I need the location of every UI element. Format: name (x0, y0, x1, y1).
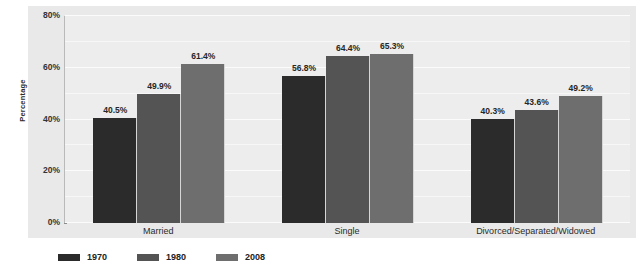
bar-value-label: 43.6% (507, 97, 567, 107)
bar[interactable] (471, 119, 515, 223)
y-axis-tick-label: 0% (18, 217, 60, 227)
bar-value-label: 61.4% (173, 51, 233, 61)
bar-group: 40.5%49.9%61.4% (65, 16, 254, 223)
bar-wrapper: 40.5% (93, 16, 137, 223)
legend-label: 1970 (87, 252, 107, 262)
bar[interactable] (326, 56, 370, 223)
bar-wrapper: 49.2% (559, 16, 603, 223)
bar-value-label: 40.3% (463, 106, 523, 116)
legend-swatch-icon (216, 254, 238, 261)
bar-value-label: 56.8% (274, 63, 334, 73)
legend-swatch-icon (137, 254, 159, 261)
bar[interactable] (93, 118, 137, 223)
legend-swatch-icon (58, 254, 80, 261)
bar[interactable] (370, 54, 414, 223)
bar-value-label: 65.3% (362, 41, 422, 51)
bar-wrapper: 65.3% (370, 16, 414, 223)
bar-wrapper: 49.9% (137, 16, 181, 223)
bar-wrapper: 61.4% (181, 16, 225, 223)
legend-label: 2008 (245, 252, 265, 262)
legend-item[interactable]: 1980 (137, 252, 186, 262)
chart-legend: 197019802008 (28, 246, 636, 268)
bar-group: 56.8%64.4%65.3% (254, 16, 443, 223)
bar-wrapper: 43.6% (515, 16, 559, 223)
bar-group: 40.3%43.6%49.2% (442, 16, 631, 223)
legend-label: 1980 (166, 252, 186, 262)
legend-item[interactable]: 1970 (58, 252, 107, 262)
bar[interactable] (137, 94, 181, 223)
y-axis-tick-label: 60% (18, 62, 60, 72)
bar-value-label: 49.9% (129, 81, 189, 91)
y-axis-tick-mark (64, 223, 67, 224)
x-axis-category-label: Single (253, 226, 442, 236)
y-axis-title: Percentage (18, 61, 27, 141)
bar-wrapper: 40.3% (471, 16, 515, 223)
bar-chart: Percentage 0%20%40%60%80% 40.5%49.9%61.4… (0, 0, 644, 271)
bar[interactable] (181, 64, 225, 223)
bar[interactable] (515, 110, 559, 223)
bar[interactable] (282, 76, 326, 223)
bar[interactable] (559, 96, 603, 223)
y-axis-tick-label: 40% (18, 114, 60, 124)
bar-value-label: 49.2% (551, 83, 611, 93)
x-axis-category-label: Divorced/Separated/Widowed (441, 226, 630, 236)
legend-item[interactable]: 2008 (216, 252, 265, 262)
y-axis-tick-label: 20% (18, 165, 60, 175)
plot-area: 40.5%49.9%61.4%56.8%64.4%65.3%40.3%43.6%… (64, 16, 630, 223)
x-axis-category-label: Married (64, 226, 253, 236)
bar-value-label: 40.5% (85, 105, 145, 115)
y-axis-tick-label: 80% (18, 10, 60, 20)
